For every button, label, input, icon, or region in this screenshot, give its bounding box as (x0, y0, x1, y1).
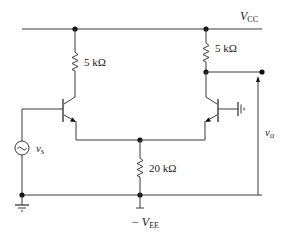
output-terminal (259, 69, 264, 74)
ac-source-vs (15, 109, 29, 195)
vee-prefix: − (132, 215, 142, 229)
ree-label: 20 kΩ (149, 163, 176, 174)
vo-label: vo (265, 127, 274, 140)
rc2-label: 5 kΩ (215, 43, 237, 54)
transistor-q1-npn (22, 97, 140, 140)
resistor-rc1 (72, 29, 78, 97)
circuit-diagram: VCC 5 kΩ 5 kΩ 20 kΩ vs vo − VEE (0, 0, 288, 235)
schematic-wires (0, 0, 288, 235)
ground-icon (238, 102, 244, 116)
vee-label: − VEE (132, 216, 159, 230)
transistor-q2-npn (140, 72, 238, 140)
resistor-rc2 (203, 29, 209, 72)
rc1-label: 5 kΩ (84, 57, 106, 68)
vo-subscript: o (270, 131, 274, 140)
ground-icon (15, 195, 29, 211)
vs-subscript: s (41, 147, 44, 156)
vcc-subscript: CC (247, 15, 258, 24)
vcc-label: VCC (240, 10, 258, 24)
vs-label: vs (36, 143, 44, 156)
resistor-ree (136, 137, 144, 208)
vee-subscript: EE (149, 221, 159, 230)
output-voltage-arrow (256, 76, 260, 195)
